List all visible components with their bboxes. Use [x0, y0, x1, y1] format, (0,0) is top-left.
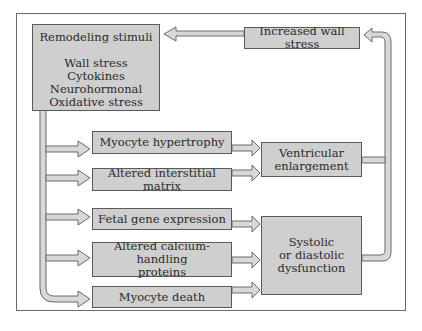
- feedback-loop-arrow: [362, 28, 391, 261]
- systolic-diastolic-dysfunction-box: Systolic or diastolic dysfunction: [261, 216, 362, 295]
- arrow-to-fetal-gene: [46, 209, 90, 225]
- arrow-to-matrix: [46, 170, 90, 186]
- myocyte-death-box: Myocyte death: [92, 286, 232, 308]
- altered-calcium-handling-line2: proteins: [138, 266, 186, 279]
- altered-calcium-handling-line1: Altered calcium-handling: [93, 240, 231, 266]
- arrow-to-calcium: [46, 250, 90, 266]
- myocyte-hypertrophy-label: Myocyte hypertrophy: [99, 136, 224, 149]
- ventricular-enlargement-box: Ventricular enlargement: [261, 142, 362, 177]
- enlargement-to-loop-connector: [362, 157, 385, 163]
- fetal-gene-expression-label: Fetal gene expression: [98, 213, 226, 226]
- ventricular-enlargement-line1: Ventricular: [279, 147, 344, 160]
- remodeling-stimuli-heading: Remodeling stimuli: [39, 31, 152, 44]
- arrow-calcium-to-dysfunction: [232, 252, 260, 268]
- trunk-to-myocyte-death-arrow: [40, 110, 90, 307]
- myocyte-death-label: Myocyte death: [119, 291, 205, 304]
- stimulus-item: Oxidative stress: [49, 96, 143, 109]
- remodeling-stimuli-box: Remodeling stimuli Wall stress Cytokines…: [32, 24, 160, 111]
- altered-calcium-handling-box: Altered calcium-handling proteins: [92, 242, 232, 277]
- dysfunction-line3: dysfunction: [278, 262, 346, 275]
- arrow-fetal-to-dysfunction: [232, 216, 260, 232]
- myocyte-hypertrophy-box: Myocyte hypertrophy: [92, 131, 232, 154]
- altered-interstitial-matrix-box: Altered interstitial matrix: [92, 168, 232, 191]
- increased-wall-stress-box: Increased wall stress: [244, 27, 360, 49]
- ventricular-enlargement-line2: enlargement: [274, 160, 348, 173]
- arrow-to-hypertrophy: [46, 141, 90, 157]
- altered-interstitial-matrix-label: Altered interstitial matrix: [93, 167, 231, 193]
- arrow-matrix-to-enlargement: [232, 165, 260, 181]
- arrow-hypertrophy-to-enlargement: [232, 140, 260, 156]
- increased-wall-stress-label: Increased wall stress: [245, 25, 359, 51]
- arrow-wall-stress-to-stimuli: [164, 27, 244, 41]
- arrow-death-to-dysfunction: [232, 282, 260, 298]
- fetal-gene-expression-box: Fetal gene expression: [92, 208, 232, 230]
